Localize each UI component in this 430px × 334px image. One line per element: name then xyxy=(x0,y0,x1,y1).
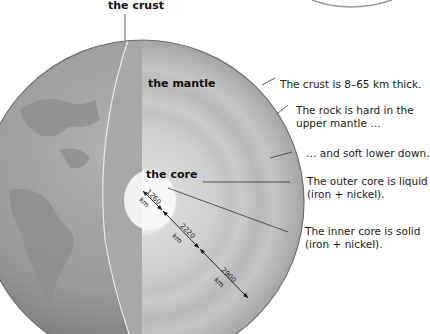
annotation-text: The inner core is solid xyxy=(305,225,420,238)
crust-label: the crust xyxy=(108,0,164,12)
annotation-text: … and soft lower down. xyxy=(306,147,430,159)
annotation-upper-mantle: The rock is hard in the upper mantle … xyxy=(296,104,414,130)
mantle-label: the mantle xyxy=(148,77,216,90)
annotation-outer-core: The outer core is liquid (iron + nickel)… xyxy=(307,175,428,201)
annotation-text: The rock is hard in the xyxy=(296,104,414,117)
annotation-inner-core: The inner core is solid (iron + nickel). xyxy=(305,225,420,251)
annotation-text: (iron + nickel). xyxy=(307,188,428,201)
annotation-text: (iron + nickel). xyxy=(305,238,420,251)
annotation-lower-mantle: … and soft lower down. xyxy=(306,147,430,160)
core-label: the core xyxy=(146,168,197,181)
annotation-text: upper mantle … xyxy=(296,117,414,130)
decorative-arc xyxy=(312,0,392,7)
annotation-text: The crust is 8–65 km thick. xyxy=(280,78,421,90)
annotation-crust-thickness: The crust is 8–65 km thick. xyxy=(280,78,421,91)
annotation-text: The outer core is liquid xyxy=(307,175,428,188)
